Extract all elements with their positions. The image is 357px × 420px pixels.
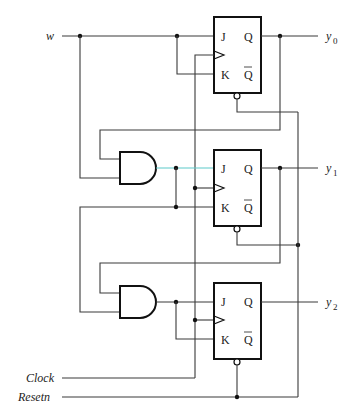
junction-dot: [193, 318, 197, 322]
y0-label: y: [325, 29, 332, 43]
junction-dot: [174, 205, 178, 209]
junction-dot: [193, 186, 197, 190]
qbar-pin-label: Q: [244, 68, 253, 82]
k-pin-label: K: [221, 201, 230, 215]
reset-bubble-icon: [234, 93, 240, 99]
q-pin-label: Q: [244, 295, 253, 309]
qbar-pin-label: Q: [244, 333, 253, 347]
y2-label: y: [325, 295, 332, 309]
reset1-wire: [237, 232, 298, 245]
circuit-diagram: J K Q Q y 0 J K Q Q y 1 J K Q: [0, 0, 357, 420]
qbar-pin-label: Q: [244, 201, 253, 215]
and-gate-1: [120, 152, 156, 184]
q-pin-label: Q: [244, 30, 253, 44]
y1-subscript: 1: [333, 168, 338, 178]
y2-subscript: 2: [333, 302, 338, 312]
junction-dot: [235, 395, 239, 399]
and-gate-2: [120, 286, 156, 318]
y0-subscript: 0: [333, 36, 338, 46]
clock-bus-wire: [195, 55, 214, 378]
w-label: w: [46, 29, 54, 43]
q-pin-label: Q: [244, 162, 253, 176]
j-pin-label: J: [221, 162, 226, 176]
reset0-wire: [237, 99, 298, 112]
resetn-label: Resetn: [17, 390, 50, 404]
reset-bubble-icon: [234, 226, 240, 232]
j-pin-label: J: [221, 30, 226, 44]
clock-label: Clock: [26, 371, 55, 385]
k-pin-label: K: [221, 333, 230, 347]
j-pin-label: J: [221, 295, 226, 309]
k-pin-label: K: [221, 68, 230, 82]
reset-bubble-icon: [234, 359, 240, 365]
y1-label: y: [325, 161, 332, 175]
